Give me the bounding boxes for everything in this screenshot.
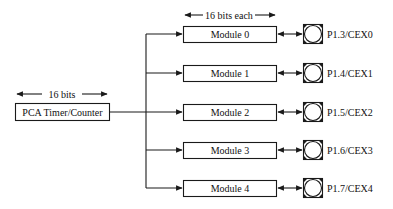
module-row-4: Module 4 P1.7/CEX4	[146, 179, 373, 198]
pin-icon	[304, 179, 323, 198]
pin-icon	[304, 25, 323, 44]
module-row-0: Module 0 P1.3/CEX0	[146, 25, 373, 44]
pin-2-label: P1.5/CEX2	[327, 107, 373, 118]
pin-0-label: P1.3/CEX0	[327, 29, 373, 40]
pin-icon	[304, 103, 323, 122]
pin-1-label: P1.4/CEX1	[327, 68, 373, 79]
module-1-label: Module 1	[211, 68, 250, 79]
module-row-2: Module 2 P1.5/CEX2	[146, 103, 373, 122]
timer-width-indicator: 16 bits	[17, 89, 107, 100]
pca-block-diagram: 16 bits PCA Timer/Counter 16 bits each M…	[0, 0, 393, 209]
timer-width-label: 16 bits	[49, 89, 76, 100]
pca-timer-counter-label: PCA Timer/Counter	[22, 107, 103, 118]
pin-3-label: P1.6/CEX3	[327, 145, 373, 156]
pin-icon	[304, 141, 323, 160]
module-2-label: Module 2	[211, 107, 250, 118]
pin-4-label: P1.7/CEX4	[327, 183, 373, 194]
pca-timer-counter-block: PCA Timer/Counter	[16, 104, 110, 121]
module-4-label: Module 4	[211, 183, 250, 194]
module-row-3: Module 3 P1.6/CEX3	[146, 141, 373, 160]
modules-width-indicator: 16 bits each	[185, 10, 275, 21]
module-row-1: Module 1 P1.4/CEX1	[146, 64, 373, 83]
modules-width-label: 16 bits each	[205, 10, 253, 21]
pin-icon	[304, 64, 323, 83]
module-0-label: Module 0	[211, 29, 250, 40]
module-3-label: Module 3	[211, 145, 250, 156]
